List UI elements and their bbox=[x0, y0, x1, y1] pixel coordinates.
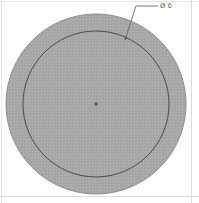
technical-drawing-canvas: Ø6 bbox=[0, 0, 199, 203]
diameter-value: 6 bbox=[166, 2, 172, 9]
diameter-callout: Ø6 bbox=[160, 2, 172, 10]
drawing-svg bbox=[0, 0, 199, 203]
center-mark-icon bbox=[95, 103, 98, 106]
diameter-symbol-icon: Ø bbox=[160, 2, 166, 9]
